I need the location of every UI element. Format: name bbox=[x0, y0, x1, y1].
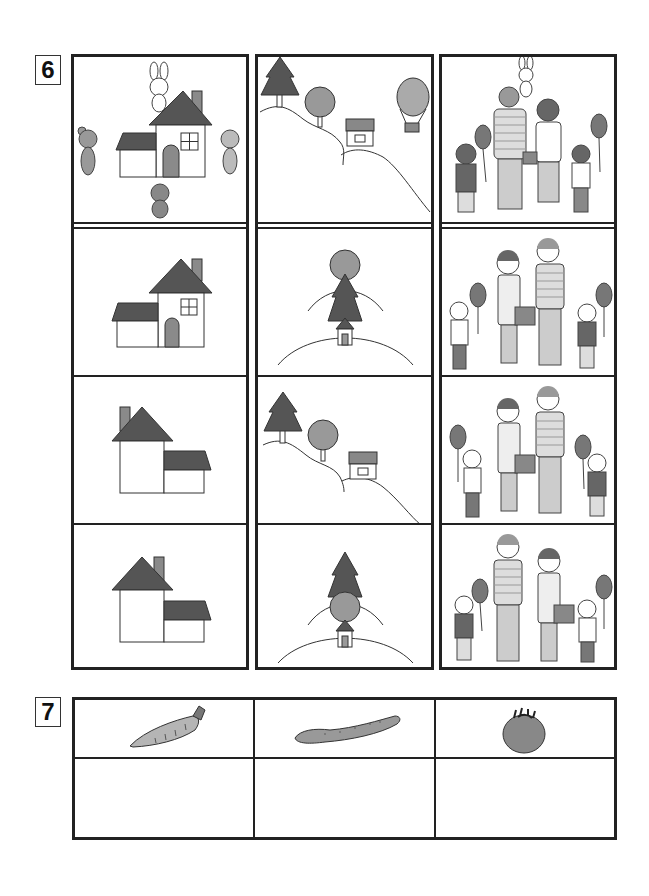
monkey-icon bbox=[151, 184, 169, 218]
answer-cell-cucumber[interactable] bbox=[255, 759, 434, 837]
tomato-cell bbox=[436, 700, 614, 757]
question-number-7: 7 bbox=[35, 697, 61, 727]
house-with-animals-illustration bbox=[74, 57, 246, 222]
vegetable-table bbox=[72, 697, 617, 840]
rabbit-icon bbox=[150, 62, 168, 112]
hillside-option-1[interactable] bbox=[258, 229, 431, 375]
house-option-2[interactable] bbox=[74, 377, 246, 523]
family-reference-cell[interactable] bbox=[442, 57, 614, 222]
question-number-6: 6 bbox=[35, 55, 61, 85]
pine-behind-tree-behind-house-illustration bbox=[258, 525, 431, 667]
house-tall-left-chimney-right-illustration bbox=[74, 525, 246, 667]
rabbit-mascot-icon bbox=[519, 57, 533, 97]
hillside-option-3[interactable] bbox=[258, 525, 431, 667]
round-tree-icon bbox=[305, 87, 335, 127]
house-tall-right-illustration bbox=[74, 229, 246, 375]
hillside-with-balloon-illustration bbox=[258, 57, 431, 222]
house-tall-left-chimney-left-illustration bbox=[74, 377, 246, 523]
pine-tree-icon bbox=[261, 57, 299, 107]
family-option-1[interactable] bbox=[442, 229, 614, 375]
family-girl-mother-father-boy-illustration bbox=[442, 229, 614, 375]
column-houses bbox=[71, 54, 249, 670]
tree-behind-pine-behind-house-illustration bbox=[258, 229, 431, 375]
hillside-option-2[interactable] bbox=[258, 377, 431, 523]
column-hillside bbox=[255, 54, 434, 670]
family-boy-father-mother-girl-illustration bbox=[442, 525, 614, 667]
house-option-3[interactable] bbox=[74, 525, 246, 667]
column-family bbox=[439, 54, 617, 670]
family-girl-mother-father-boy-variant-illustration bbox=[442, 377, 614, 523]
cat-icon bbox=[221, 130, 239, 174]
carrot-icon bbox=[75, 700, 253, 757]
family-from-behind-illustration bbox=[442, 57, 614, 222]
hot-air-balloon-icon bbox=[397, 78, 429, 132]
tomato-icon bbox=[436, 700, 614, 757]
family-option-3[interactable] bbox=[442, 525, 614, 667]
answer-cell-tomato[interactable] bbox=[436, 759, 614, 837]
carrot-cell bbox=[75, 700, 253, 757]
answer-cell-carrot[interactable] bbox=[75, 759, 253, 837]
bear-icon bbox=[78, 127, 97, 175]
house-reference-cell[interactable] bbox=[74, 57, 246, 222]
family-option-2[interactable] bbox=[442, 377, 614, 523]
cucumber-icon bbox=[255, 700, 434, 757]
hillside-without-balloon-illustration bbox=[258, 377, 431, 523]
cucumber-cell bbox=[255, 700, 434, 757]
hillside-reference-cell[interactable] bbox=[258, 57, 431, 222]
small-house-icon bbox=[346, 119, 374, 146]
house-option-1[interactable] bbox=[74, 229, 246, 375]
